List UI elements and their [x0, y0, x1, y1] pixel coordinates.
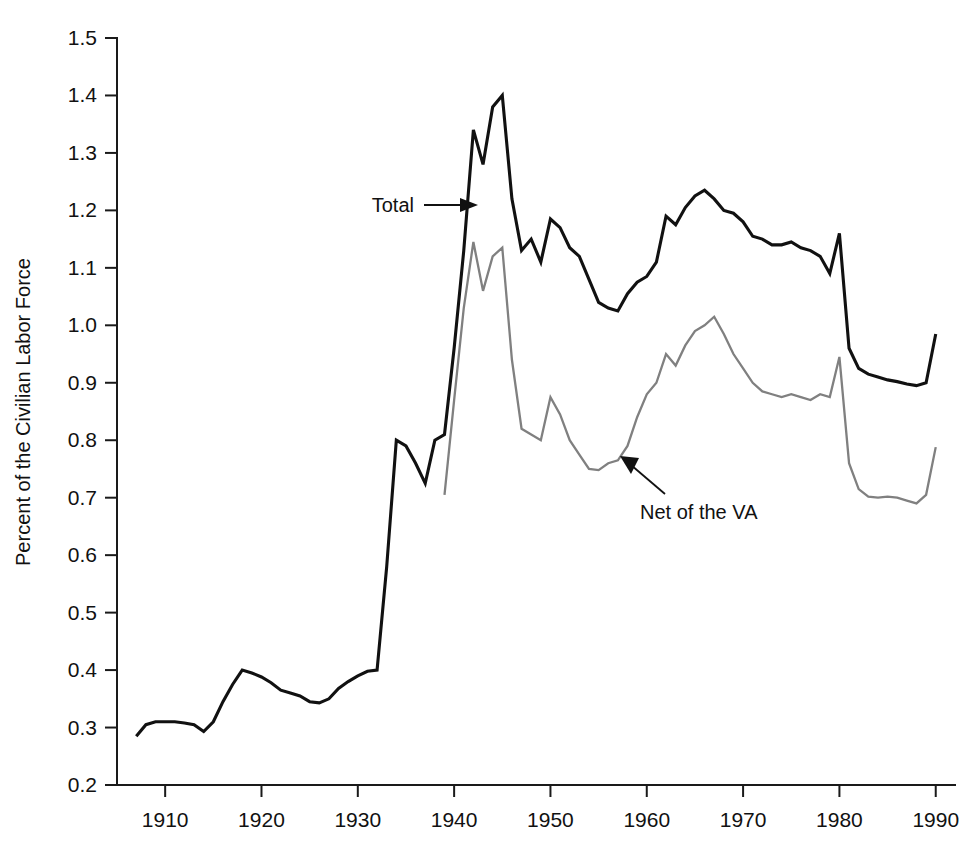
y-axis-tick-labels: 0.20.30.40.50.60.70.80.91.01.11.21.31.41… [68, 26, 98, 796]
y-axis-title: Percent of the Civilian Labor Force [12, 258, 34, 566]
y-tick-label: 0.9 [68, 371, 97, 394]
series-line-total [136, 95, 935, 736]
x-tick-label: 1940 [431, 808, 478, 831]
y-tick-label: 0.8 [68, 428, 97, 451]
chart-annotations: TotalNet of the VA [372, 194, 758, 523]
y-tick-label: 1.4 [68, 83, 98, 106]
chart-series-group [136, 95, 935, 736]
x-tick-label: 1980 [816, 808, 863, 831]
x-tick-label: 1990 [912, 808, 959, 831]
chart-figure: 0.20.30.40.50.60.70.80.91.01.11.21.31.41… [0, 0, 972, 861]
x-tick-label: 1910 [142, 808, 189, 831]
y-tick-label: 1.5 [68, 26, 97, 49]
y-tick-label: 0.4 [68, 658, 98, 681]
x-tick-label: 1950 [527, 808, 574, 831]
line-chart: 0.20.30.40.50.60.70.80.91.01.11.21.31.41… [0, 0, 972, 861]
y-tick-label: 1.1 [68, 256, 97, 279]
annotation-label-total: Total [372, 194, 414, 216]
series-line-net-of-the-va [444, 242, 935, 503]
x-tick-label: 1930 [334, 808, 381, 831]
y-tick-label: 0.6 [68, 543, 97, 566]
y-tick-label: 1.2 [68, 198, 97, 221]
y-tick-label: 1.0 [68, 313, 97, 336]
y-tick-label: 0.5 [68, 601, 97, 624]
y-tick-label: 0.3 [68, 716, 97, 739]
annotation-arrowhead-net-of-the-va [620, 456, 639, 474]
x-tick-label: 1920 [238, 808, 285, 831]
annotation-leader-net-of-the-va [631, 465, 665, 494]
x-tick-label: 1960 [623, 808, 670, 831]
x-axis-tick-labels: 191019201930194019501960197019801990 [142, 808, 959, 831]
x-tick-label: 1970 [720, 808, 767, 831]
annotation-label-net-of-the-va: Net of the VA [640, 501, 758, 523]
y-tick-label: 0.2 [68, 773, 97, 796]
y-tick-label: 0.7 [68, 486, 97, 509]
y-tick-label: 1.3 [68, 141, 97, 164]
